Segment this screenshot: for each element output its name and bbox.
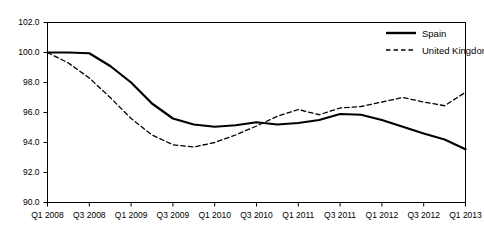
line-chart: SpainUnited Kingdom 102.0100.098.096.094… — [0, 0, 484, 237]
y-axis-label: 100.0 — [0, 47, 40, 57]
series-line-spain — [48, 53, 466, 150]
legend-label: Spain — [422, 28, 446, 39]
y-axis-label: 102.0 — [0, 17, 40, 27]
y-axis-label: 90.0 — [0, 197, 40, 207]
chart-plot-area: SpainUnited Kingdom — [0, 0, 484, 237]
x-axis-label: Q1 2013 — [441, 210, 484, 220]
y-axis-label: 98.0 — [0, 77, 40, 87]
legend-label: United Kingdom — [422, 45, 484, 56]
y-axis-label: 92.0 — [0, 167, 40, 177]
y-axis-label: 94.0 — [0, 137, 40, 147]
y-axis-label: 96.0 — [0, 107, 40, 117]
